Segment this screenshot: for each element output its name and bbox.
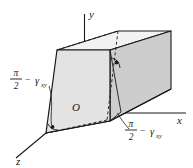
angle-dot-upper: [115, 61, 119, 65]
z-axis-label: z: [15, 155, 21, 167]
parallelepiped-body: [46, 31, 171, 133]
annotation-left-operator: −: [25, 75, 30, 85]
annotation-left-denominator: 2: [14, 81, 19, 91]
front-face: [46, 50, 110, 133]
leader-line-right: [118, 113, 130, 129]
annotation-right-denominator: 2: [129, 132, 134, 142]
z-axis-line: [16, 133, 46, 158]
annotation-right-gamma: γ: [150, 126, 155, 137]
x-axis-label: x: [176, 114, 182, 126]
annotation-right: π 2 − γ xy: [125, 119, 162, 142]
origin-label: O: [72, 101, 80, 113]
annotation-right-subscript: xy: [155, 132, 162, 139]
y-axis-label: y: [88, 8, 94, 20]
annotation-left-gamma: γ: [35, 75, 40, 86]
angle-dot-lower: [51, 125, 55, 129]
annotation-right-numerator: π: [129, 119, 134, 129]
annotation-left-numerator: π: [14, 68, 19, 78]
annotation-left-subscript: xy: [40, 81, 47, 88]
annotation-right-operator: −: [140, 126, 145, 136]
shear-strain-diagram: y x z O π 2 − γ xy π 2 − γ xy: [0, 0, 193, 168]
annotation-left: π 2 − γ xy: [10, 68, 47, 91]
